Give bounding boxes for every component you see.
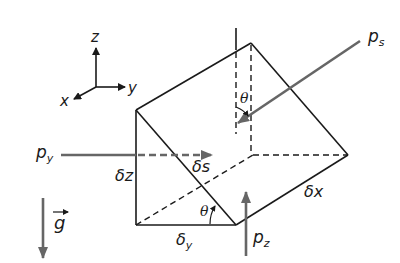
dimension-dz-label: δz (115, 166, 134, 185)
gravity-label: g (53, 212, 68, 233)
dimension-dx-label: δx (304, 182, 324, 201)
x-axis-label: x (59, 92, 69, 110)
svg-text:θ: θ (240, 90, 249, 106)
angle-theta-top: θ (236, 90, 249, 116)
angle-theta-bottom: θ (200, 203, 215, 224)
dimension-dy-label: δy (176, 230, 193, 252)
z-axis-label: z (90, 28, 100, 46)
x-axis-arrow (74, 87, 96, 99)
force-ps-arrow (238, 41, 360, 123)
force-ps-label: ps (367, 26, 385, 49)
force-pz-label: pz (252, 227, 270, 250)
wedge-diagram: z y x ps py pz g (0, 0, 400, 263)
y-axis-label: y (127, 79, 138, 97)
svg-text:θ: θ (200, 203, 209, 219)
force-py-label: py (35, 142, 54, 165)
edge-front-hypotenuse (136, 110, 236, 225)
edge-bottom-right (236, 155, 348, 225)
dimension-ds-label: δs (192, 157, 210, 176)
edge-top-ridge (136, 43, 251, 110)
svg-text:g: g (54, 212, 65, 233)
coordinate-axes: z y x (59, 28, 138, 110)
